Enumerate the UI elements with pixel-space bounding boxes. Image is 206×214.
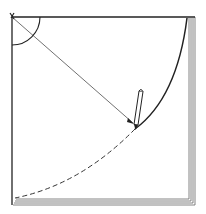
quarter-circle-diagram (0, 0, 206, 214)
drawn-arc (135, 18, 187, 129)
corner-angle-arc (12, 17, 40, 45)
arrowhead-icon (127, 118, 134, 124)
string-line (12, 17, 133, 123)
remaining-arc-dashed (15, 129, 135, 198)
paper-stack (13, 17, 195, 205)
paper-sheet (12, 17, 195, 205)
